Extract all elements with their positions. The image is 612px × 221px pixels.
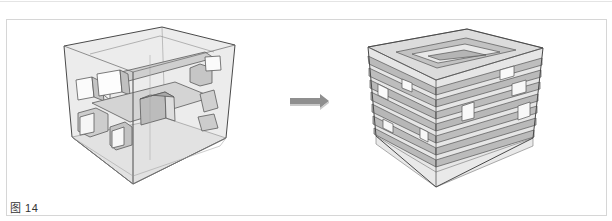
figure-illustration xyxy=(0,0,612,221)
left-cube-model xyxy=(64,27,235,184)
right-cube-model xyxy=(368,29,543,187)
figure-caption: 图 14 xyxy=(10,199,38,215)
right-arrow-icon xyxy=(290,94,329,110)
